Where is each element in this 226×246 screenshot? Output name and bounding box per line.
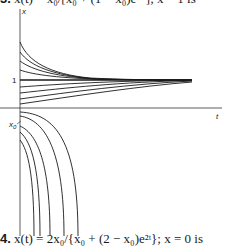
x-axis-label: t [216,112,219,121]
curves-between-zero-one [20,80,192,104]
solution-curves-figure: x t 1 x0 [0,0,226,246]
problem-formula: x(t) = 2x₀/{x₀ + (2 − x₀)e²ᵗ}; x = 0 is [11,231,203,246]
y-axis-label: x [21,7,27,16]
next-problem-caption: 4. x(t) = 2x₀/{x₀ + (2 − x₀)e²ᵗ}; x = 0 … [0,232,203,246]
problem-number: 4. [0,231,11,246]
curves-above-one [20,42,192,80]
curves-below-zero [20,112,78,236]
x0-label: x0 [8,120,17,130]
tick-label-1: 1 [12,76,17,85]
